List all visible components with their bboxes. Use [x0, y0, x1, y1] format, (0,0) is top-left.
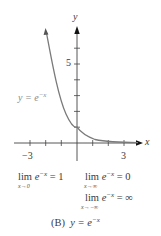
figure-caption: (B) y = e−x — [51, 216, 100, 228]
limit-sub-x-to-inf: x→∞ — [84, 183, 97, 189]
x-tick-label-neg3: −3 — [22, 150, 33, 161]
limit-sub-x-to-neg-inf: x→−∞ — [81, 204, 98, 210]
graph — [0, 0, 161, 236]
y-axis-label: y — [73, 11, 77, 22]
limit-x-to-neg-inf: lim e−x = ∞ — [85, 191, 133, 203]
x-axis-label: x — [145, 136, 149, 147]
limit-x-to-0: lim e−x = 1 — [18, 170, 64, 182]
x-tick-label-3: 3 — [121, 150, 126, 161]
curve-label: y = e−x — [18, 91, 46, 103]
curve-arrow-icon — [44, 28, 49, 35]
limit-x-to-inf: lim e−x = 0 — [85, 170, 131, 182]
y-axis-arrow-icon — [74, 26, 79, 34]
y-tick-label-5: 5 — [66, 57, 71, 68]
curve-exp-neg-x — [47, 33, 139, 143]
limit-sub-x-to-0: x→0 — [18, 183, 30, 189]
